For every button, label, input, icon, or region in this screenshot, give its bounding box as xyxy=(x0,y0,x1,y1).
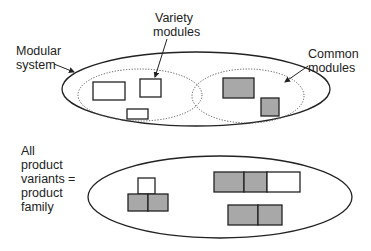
product-family-label: All product variants product family xyxy=(21,144,65,214)
label-line: Common xyxy=(308,47,359,61)
variety-module xyxy=(267,172,300,192)
common-module xyxy=(228,205,258,225)
common-module xyxy=(128,194,148,211)
common-module xyxy=(223,78,254,98)
label-line: modules xyxy=(308,61,359,75)
label-line: variants xyxy=(21,172,65,186)
common-module xyxy=(214,172,244,192)
label-line: family xyxy=(21,200,65,214)
label-line: system xyxy=(16,58,61,72)
variety-module xyxy=(93,82,125,100)
label-line: modules xyxy=(153,25,200,39)
variety-module xyxy=(140,79,161,97)
variety-module xyxy=(138,178,155,194)
label-line: product xyxy=(21,186,65,200)
label-line: product xyxy=(21,158,65,172)
modular-system-label: Modular system xyxy=(16,44,61,72)
common-module xyxy=(148,194,168,211)
variety-module xyxy=(127,109,148,119)
label-line: Modular xyxy=(16,44,61,58)
common-module xyxy=(244,172,267,192)
common-module xyxy=(261,98,279,116)
common-modules-arrow xyxy=(285,66,308,82)
common-module xyxy=(258,205,282,225)
equals-sign: = xyxy=(68,172,75,186)
common-modules-label: Common modules xyxy=(308,47,359,75)
label-line: Variety xyxy=(153,11,200,25)
variety-modules-label: Variety modules xyxy=(153,11,200,39)
label-line: All xyxy=(21,144,65,158)
